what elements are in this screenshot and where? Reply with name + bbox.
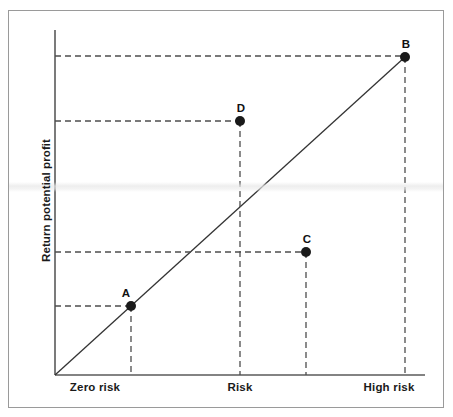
x-tick-label-high-risk: High risk bbox=[363, 381, 414, 393]
data-point-d bbox=[235, 116, 245, 126]
data-point-b bbox=[400, 52, 410, 62]
data-point-label-a: A bbox=[122, 287, 130, 299]
risk-return-line bbox=[55, 57, 405, 375]
chart-canvas bbox=[0, 0, 453, 417]
figure-root: A B C D Zero risk Risk High risk Return … bbox=[0, 0, 453, 417]
data-point-label-b: B bbox=[402, 38, 410, 50]
x-tick-label-risk: Risk bbox=[227, 381, 252, 393]
data-point-c bbox=[301, 247, 311, 257]
data-point-a bbox=[126, 301, 136, 311]
y-axis-title: Return potential profit bbox=[40, 139, 52, 262]
data-point-label-d: D bbox=[237, 102, 245, 114]
x-tick-label-zero-risk: Zero risk bbox=[70, 381, 120, 393]
data-point-label-c: C bbox=[303, 233, 311, 245]
